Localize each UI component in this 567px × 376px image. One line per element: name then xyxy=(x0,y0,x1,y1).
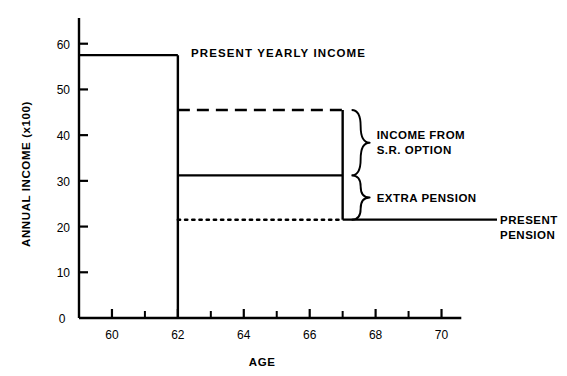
y-tick-label-40: 40 xyxy=(57,129,71,143)
y-tick-label-60: 60 xyxy=(57,38,71,52)
y-tick-label-10: 10 xyxy=(57,266,71,280)
annotation-present-pension-line1: PRESENT xyxy=(500,214,558,226)
x-tick-label-70: 70 xyxy=(435,328,449,342)
annotation-present-pension-line2: PENSION xyxy=(500,229,555,241)
y-tick-label-30: 30 xyxy=(57,175,71,189)
y-tick-label-50: 50 xyxy=(57,83,71,97)
x-tick-label-66: 66 xyxy=(303,328,317,342)
x-tick-label-64: 64 xyxy=(237,328,251,342)
annotation-extra-pension-line1: EXTRA PENSION xyxy=(377,192,477,204)
x-tick-label-60: 60 xyxy=(105,328,119,342)
income-pension-chart: 102030405060 606264666870 0 ANNUAL INCOM… xyxy=(0,0,567,376)
origin-tick-label: 0 xyxy=(59,312,66,326)
y-axis-title: ANNUAL INCOME (x100) xyxy=(20,101,32,247)
plot-title: PRESENT YEARLY INCOME xyxy=(191,47,366,59)
annotation-income-from-sr-option-line2: S.R. OPTION xyxy=(377,144,452,156)
x-tick-label-68: 68 xyxy=(369,328,383,342)
x-axis-title: AGE xyxy=(249,356,276,368)
x-tick-label-62: 62 xyxy=(171,328,185,342)
chart-figure: 102030405060 606264666870 0 ANNUAL INCOM… xyxy=(0,0,567,376)
y-tick-label-20: 20 xyxy=(57,221,71,235)
annotation-income-from-sr-option-line1: INCOME FROM xyxy=(377,129,466,141)
